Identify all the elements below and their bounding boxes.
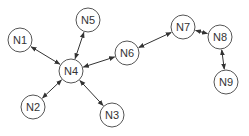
node-label: N8 (213, 31, 227, 43)
edge-n4-n3 (80, 81, 103, 106)
node-n9: N9 (214, 70, 238, 94)
node-n2: N2 (21, 95, 45, 119)
node-label: N3 (105, 109, 119, 121)
node-label: N5 (81, 14, 95, 26)
node-n6: N6 (115, 41, 139, 65)
edge-n4-n2 (42, 80, 61, 98)
graph-svg: N1N2N3N4N5N6N7N8N9 (0, 0, 249, 136)
node-n8: N8 (208, 25, 232, 49)
edge-n7-n8 (196, 30, 208, 33)
node-n1: N1 (8, 28, 32, 52)
network-diagram: N1N2N3N4N5N6N7N8N9 (0, 0, 249, 136)
node-label: N1 (13, 34, 27, 46)
edge-n6-n7 (139, 32, 171, 47)
node-label: N6 (120, 47, 134, 59)
node-label: N4 (64, 65, 78, 77)
edge-n8-n9 (222, 50, 225, 69)
node-label: N9 (219, 76, 233, 88)
node-n4: N4 (59, 59, 83, 83)
edge-n4-n6 (83, 57, 114, 67)
edge-n4-n5 (75, 32, 84, 58)
node-label: N7 (176, 21, 190, 33)
node-n5: N5 (76, 8, 100, 32)
edge-n4-n1 (31, 47, 60, 64)
node-n7: N7 (171, 15, 195, 39)
node-n3: N3 (100, 103, 124, 127)
nodes-group: N1N2N3N4N5N6N7N8N9 (8, 8, 238, 127)
node-label: N2 (26, 101, 40, 113)
